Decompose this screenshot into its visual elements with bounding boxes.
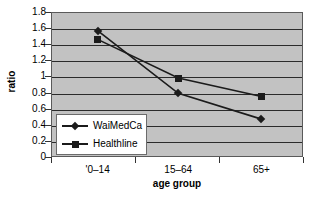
line-chart: ratio 00.20.40.60.811.21.41.61.8 '0–1415… [0,0,317,197]
y-axis-tick-label: 0.8 [12,88,46,98]
y-axis-tick-label: 0 [12,152,46,162]
y-axis-tick-label: 1 [12,71,46,81]
legend-item: WaiMedCa [57,117,146,135]
x-axis-tick-mark [51,157,52,163]
y-axis-tick-mark [45,76,51,77]
x-axis-tick-label: 65+ [221,164,301,175]
y-axis-tick-mark [45,109,51,110]
legend-item: Healthline [57,135,146,153]
y-axis-tick-label: 0.4 [12,120,46,130]
y-axis-tick-label: 1.6 [12,23,46,33]
square-marker [94,36,101,43]
x-axis-tick-mark [135,157,136,163]
square-marker [258,93,265,100]
y-axis-tick-label: 1.4 [12,39,46,49]
diamond-marker [71,122,79,130]
x-axis-tick-mark [303,157,304,163]
y-axis-tick-labels: 00.20.40.60.811.21.41.61.8 [12,12,46,157]
x-axis-tick-label: '0–14 [58,164,138,175]
y-axis-tick-mark [45,60,51,61]
x-axis-tick-mark [219,157,220,163]
y-axis-tick-mark [45,125,51,126]
legend-label: WaiMedCa [93,120,142,132]
y-axis-tick-label: 0.6 [12,104,46,114]
diamond-marker [93,26,101,34]
legend-label: Healthline [93,138,137,150]
x-axis-tick-label: 15–64 [138,164,218,175]
square-marker [175,75,182,82]
chart-legend: WaiMedCaHealthline [56,114,147,155]
y-axis-tick-label: 0.2 [12,136,46,146]
y-axis-tick-label: 1.2 [12,55,46,65]
y-axis-tick-mark [45,28,51,29]
gridline [52,158,302,159]
y-axis-tick-mark [45,141,51,142]
y-axis-tick-mark [45,12,51,13]
diamond-marker [174,89,182,97]
square-marker [72,141,79,148]
y-axis-tick-mark [45,93,51,94]
diamond-marker [257,115,265,123]
x-axis-title: age group [51,178,303,189]
y-axis-tick-mark [45,44,51,45]
y-axis-tick-label: 1.8 [12,7,46,17]
